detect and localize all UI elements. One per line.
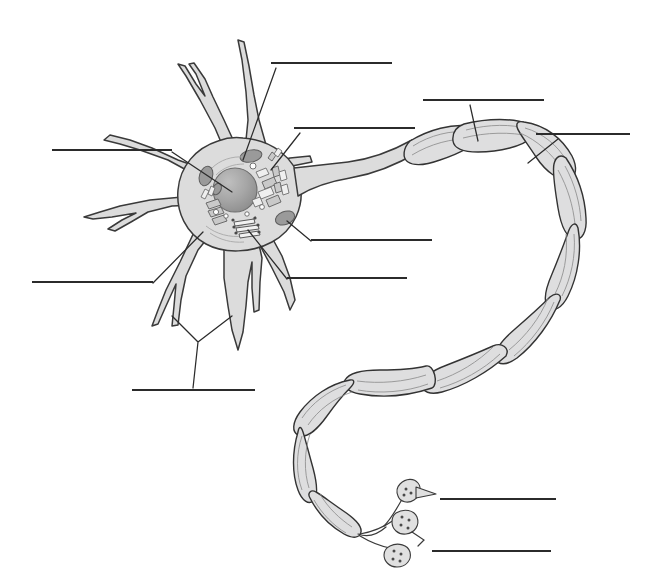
axon-terminal-bouton-2	[392, 510, 418, 534]
axon-terminal-bouton-3	[384, 544, 410, 567]
neuron-diagram	[0, 0, 658, 587]
axon-hillock	[294, 140, 418, 196]
diagram-canvas	[0, 0, 658, 587]
axon-terminals-group	[358, 479, 436, 567]
pointer-to-mitochondrion	[287, 221, 311, 241]
axon-myelin-group	[294, 120, 587, 538]
pointer-to-dendrites	[172, 316, 232, 388]
